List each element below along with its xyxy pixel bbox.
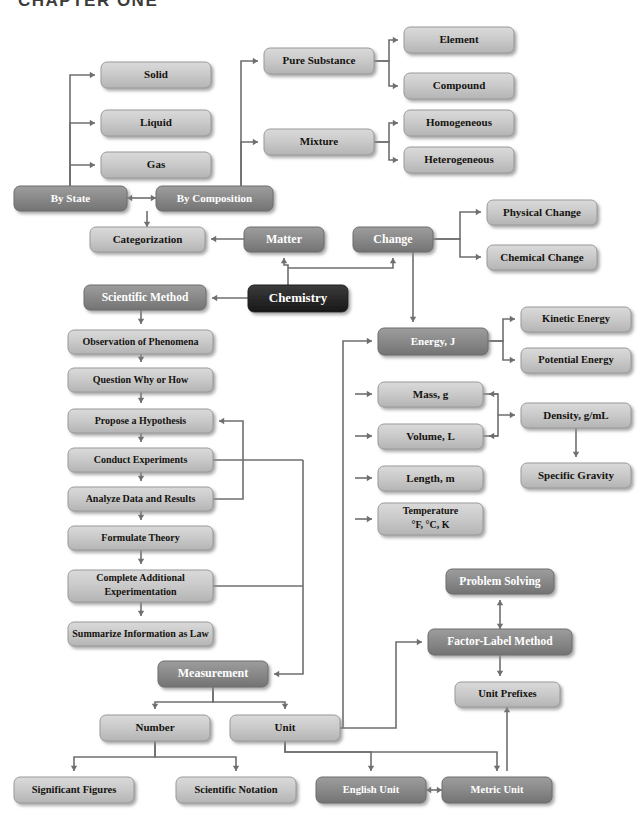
node-gas[interactable]: Gas — [101, 152, 211, 178]
node-specific-gravity[interactable]: Specific Gravity — [521, 463, 631, 488]
arrow-head — [489, 391, 494, 397]
node-complete-add[interactable]: Complete AdditionalExperimentation — [68, 570, 213, 602]
node-change[interactable]: Change — [353, 227, 433, 252]
node-unit[interactable]: Unit — [230, 715, 340, 741]
node-problem-solving[interactable]: Problem Solving — [446, 569, 554, 594]
concept-map-root: CHAPTER ONE SolidLiquidGasBy S — [0, 0, 644, 825]
node-length[interactable]: Length, m — [378, 466, 483, 491]
node-unit-prefixes[interactable]: Unit Prefixes — [455, 682, 560, 707]
arrow-head — [476, 254, 481, 260]
edge-line — [343, 341, 372, 728]
node-heterogeneous[interactable]: Heterogeneous — [404, 147, 514, 173]
edge-change-to-energy — [410, 252, 416, 322]
edge-density-to-specific-gravity — [573, 428, 579, 457]
node-mass[interactable]: Mass, g — [378, 382, 483, 407]
edge-pure-substance-to-compound — [374, 61, 398, 89]
edge-chemistry-to-change — [288, 258, 396, 268]
edge-line — [274, 460, 303, 674]
edge-mass-to-density — [483, 394, 515, 418]
edge-measurement-to-number — [152, 687, 213, 709]
node-analyze[interactable]: Analyze Data and Results — [68, 487, 213, 511]
node-compound[interactable]: Compound — [404, 73, 514, 99]
node-label-line2: °F, °C, K — [411, 519, 449, 530]
node-layer: SolidLiquidGasBy StateBy CompositionPure… — [14, 27, 631, 803]
edge-complete-add-to-summarize — [138, 602, 144, 616]
node-density[interactable]: Density, g/mL — [521, 403, 631, 428]
arrow-head — [138, 437, 144, 442]
edge-line — [288, 258, 393, 268]
arrow-head — [253, 58, 258, 64]
arrow-head — [510, 412, 515, 418]
node-label: Question Why or How — [93, 374, 189, 385]
arrow-head — [253, 139, 258, 145]
node-label: Factor-Label Method — [447, 635, 553, 647]
node-by-composition[interactable]: By Composition — [156, 186, 273, 211]
node-chemistry[interactable]: Chemistry — [248, 285, 348, 312]
node-observation[interactable]: Observation of Phenomena — [68, 330, 213, 354]
node-chemical-change[interactable]: Chemical Change — [487, 245, 597, 270]
edge-by-composition-to-mixture — [241, 139, 258, 186]
node-mixture[interactable]: Mixture — [264, 129, 374, 155]
edge-quantity-rail-to-temperature — [355, 516, 372, 522]
edge-line — [488, 319, 515, 341]
arrow-head — [367, 516, 372, 522]
node-significant-figures[interactable]: Significant Figures — [14, 777, 134, 803]
node-label: Volume, L — [406, 430, 455, 442]
node-temperature[interactable]: Temperature°F, °C, K — [378, 503, 483, 535]
arrow-head — [367, 475, 372, 481]
arrow-head — [138, 559, 144, 564]
node-conduct[interactable]: Conduct Experiments — [68, 448, 213, 472]
node-volume[interactable]: Volume, L — [378, 424, 483, 449]
node-factor-label[interactable]: Factor-Label Method — [428, 629, 572, 655]
edge-quantity-rail-to-volume — [355, 433, 372, 439]
arrow-head — [573, 452, 579, 457]
node-element[interactable]: Element — [404, 27, 514, 53]
arrow-head — [393, 157, 398, 163]
node-pure-substance[interactable]: Pure Substance — [264, 48, 374, 74]
node-question[interactable]: Question Why or How — [68, 368, 213, 392]
edge-energy-to-potential — [488, 341, 515, 363]
node-categorization[interactable]: Categorization — [90, 227, 205, 252]
node-scientific-notation[interactable]: Scientific Notation — [176, 777, 296, 803]
node-metric-unit[interactable]: Metric Unit — [442, 777, 552, 803]
arrow-head — [233, 766, 239, 771]
node-english-unit[interactable]: English Unit — [316, 777, 426, 803]
node-hypothesis[interactable]: Propose a Hypothesis — [68, 409, 213, 433]
node-potential[interactable]: Potential Energy — [521, 348, 631, 373]
edge-line — [488, 341, 515, 360]
edge-energy-to-kinetic — [488, 316, 515, 341]
node-by-state[interactable]: By State — [14, 186, 127, 211]
node-scientific-method[interactable]: Scientific Method — [84, 285, 206, 310]
node-theory[interactable]: Formulate Theory — [68, 526, 213, 550]
node-measurement[interactable]: Measurement — [158, 661, 268, 687]
node-label: Specific Gravity — [538, 469, 615, 481]
arrow-head — [437, 787, 442, 793]
edge-line — [483, 415, 498, 436]
node-label: Complete Additional — [96, 572, 185, 583]
edge-factor-label-to-problem-solving — [497, 600, 503, 629]
node-matter[interactable]: Matter — [244, 227, 324, 252]
node-kinetic[interactable]: Kinetic Energy — [521, 307, 631, 332]
node-liquid[interactable]: Liquid — [101, 110, 211, 136]
edge-chemistry-to-matter — [281, 258, 288, 285]
arrow-head — [282, 704, 288, 709]
edge-line — [340, 642, 422, 728]
node-label: Unit — [275, 721, 296, 733]
node-homogeneous[interactable]: Homogeneous — [404, 110, 514, 136]
arrow-head — [367, 433, 372, 439]
arrow-head — [211, 236, 216, 242]
arrow-head — [497, 600, 503, 605]
node-summarize[interactable]: Summarize Information as Law — [68, 622, 213, 646]
arrow-head — [393, 83, 398, 89]
node-solid[interactable]: Solid — [101, 62, 211, 88]
node-energy[interactable]: Energy, J — [378, 328, 488, 355]
node-physical-change[interactable]: Physical Change — [487, 200, 597, 225]
node-label: Energy, J — [411, 335, 456, 347]
node-label: Chemical Change — [500, 251, 584, 263]
edge-line — [374, 40, 398, 61]
arrow-head — [138, 319, 144, 324]
node-label: Scientific Notation — [194, 784, 277, 795]
edge-line — [241, 61, 258, 186]
node-number[interactable]: Number — [100, 715, 210, 741]
arrow-head — [393, 120, 398, 126]
